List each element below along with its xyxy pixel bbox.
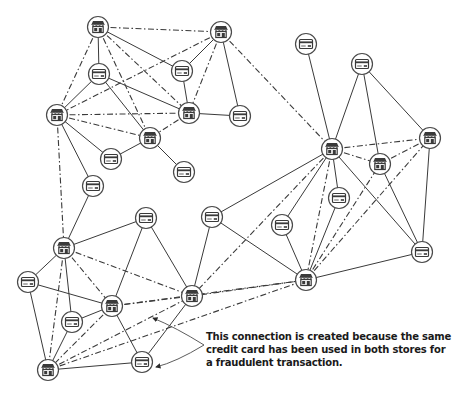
- transaction-edge-S1-C2: [98, 27, 182, 71]
- transaction-edge-C1-S4: [99, 74, 150, 138]
- store-node-S4: [140, 128, 161, 149]
- transaction-edge-C13-S9: [306, 198, 339, 280]
- store-node-S12: [420, 128, 441, 149]
- transaction-edge-C15-S10: [306, 44, 332, 149]
- transaction-edge-S2-C6: [57, 115, 93, 186]
- card-node-C2: [172, 61, 193, 82]
- edges-layer: [28, 27, 430, 370]
- card-node-C5: [101, 149, 122, 170]
- store-node-S8: [182, 286, 203, 307]
- card-node-C10: [132, 352, 153, 373]
- card-node-C3: [230, 106, 251, 127]
- transaction-edge-S10-C11: [212, 149, 332, 217]
- transaction-edge-S11-C14: [380, 164, 422, 252]
- card-node-C4: [174, 162, 195, 183]
- derived-edge-S1-S13: [98, 27, 221, 32]
- transaction-edge-C16-S10: [332, 64, 362, 149]
- transaction-edge-S12-C14: [422, 138, 430, 252]
- nodes-layer: [18, 17, 441, 381]
- store-node-S13: [211, 22, 232, 43]
- derived-edge-S13-S2: [57, 32, 221, 115]
- card-node-C15: [296, 34, 317, 55]
- derived-edge-S5-S7: [48, 248, 64, 370]
- annotation-line-3: a fraudulent transaction.: [206, 356, 456, 369]
- card-node-C16: [352, 54, 373, 75]
- transaction-edge-S9-C14: [306, 252, 422, 280]
- store-node-S11: [370, 154, 391, 175]
- store-node-S5: [54, 238, 75, 259]
- derived-edge-S10-S12: [332, 138, 430, 149]
- transaction-edge-S6-C7: [112, 218, 146, 306]
- card-node-C12: [272, 215, 293, 236]
- derived-edge-S9-S12: [306, 138, 430, 280]
- transaction-edge-C10-S8: [142, 296, 192, 362]
- derived-edge-S2-S5: [57, 115, 64, 248]
- transaction-edge-C16-S11: [362, 64, 380, 164]
- transaction-edge-C16-S12: [362, 64, 430, 138]
- annotation-line-1: This connection is created because the s…: [206, 330, 456, 343]
- card-node-C11: [202, 207, 223, 228]
- card-node-C6: [83, 176, 104, 197]
- store-node-S1: [88, 17, 109, 38]
- store-node-S2: [47, 105, 68, 126]
- store-node-S9: [296, 270, 317, 291]
- transaction-edge-S13-C3: [221, 32, 240, 116]
- derived-edge-S2-S3: [57, 113, 189, 115]
- transaction-edge-S5-C9: [64, 248, 72, 322]
- annotation-callout: This connection is created because the s…: [206, 330, 456, 369]
- annotation-arrows: [153, 318, 204, 367]
- annotation-line-2: credit card has been used in both stores…: [206, 343, 456, 356]
- store-node-S10: [322, 139, 343, 160]
- annotation-arrow-2: [156, 345, 204, 367]
- card-node-C1: [89, 64, 110, 85]
- card-node-C9: [62, 312, 83, 333]
- card-node-C13: [329, 188, 350, 209]
- transaction-edge-C11-S8: [192, 217, 212, 296]
- derived-edge-S13-S3: [189, 32, 221, 113]
- card-node-C14: [412, 242, 433, 263]
- store-node-S6: [102, 296, 123, 317]
- card-node-C8: [18, 272, 39, 293]
- store-node-S3: [179, 103, 200, 124]
- card-node-C7: [136, 208, 157, 229]
- transaction-edge-C8-S7: [28, 282, 48, 370]
- transaction-edge-C7-S8: [146, 218, 192, 296]
- derived-edge-S9-S11: [306, 164, 380, 280]
- store-node-S7: [38, 360, 59, 381]
- annotation-arrow-1: [153, 318, 204, 345]
